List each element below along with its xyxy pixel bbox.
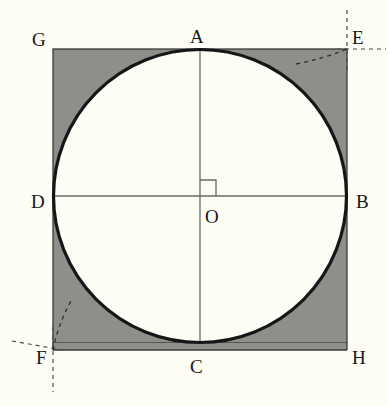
vertex-label-o: O xyxy=(205,207,219,226)
vertex-label-g: G xyxy=(32,30,46,49)
vertex-label-c: C xyxy=(190,357,203,376)
vertex-label-d: D xyxy=(31,192,45,211)
vertex-label-b: B xyxy=(356,192,369,211)
geometry-canvas xyxy=(0,0,388,406)
vertex-label-a: A xyxy=(190,27,204,46)
geometry-figure: G A E D O B F C H xyxy=(0,0,388,406)
vertex-label-h: H xyxy=(352,348,366,367)
vertex-label-f: F xyxy=(36,348,47,367)
vertex-label-e: E xyxy=(352,28,364,47)
